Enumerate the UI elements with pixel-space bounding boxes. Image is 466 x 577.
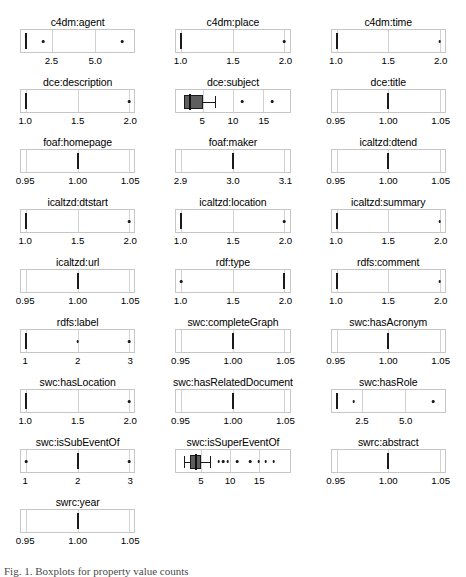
panel-title: swrc:year bbox=[0, 496, 155, 508]
x-axis: 2.93.03.1 bbox=[155, 174, 310, 188]
gridline bbox=[233, 270, 234, 292]
x-axis: 0.951.001.05 bbox=[311, 114, 466, 128]
x-tick-label: 1.0 bbox=[174, 295, 187, 306]
x-tick-label: 1.05 bbox=[431, 175, 450, 186]
whisker-cap bbox=[210, 456, 211, 468]
median-line bbox=[77, 513, 79, 529]
gridline bbox=[388, 210, 389, 232]
boxplot-panel: icaltzd:dtend0.951.001.05 bbox=[311, 136, 466, 196]
boxplot-panel: foaf:homepage0.951.001.05 bbox=[0, 136, 155, 196]
x-axis: 2.55.0 bbox=[0, 54, 155, 68]
x-tick-label: 2.0 bbox=[279, 235, 292, 246]
panel-title: icaltzd:dtstart bbox=[0, 196, 155, 208]
x-axis: 1.01.52.0 bbox=[0, 234, 155, 248]
x-axis: 0.951.001.05 bbox=[311, 354, 466, 368]
gridline bbox=[78, 390, 79, 412]
figure-caption: Fig. 1. Boxplots for property value coun… bbox=[4, 565, 244, 577]
x-axis: 0.951.001.05 bbox=[311, 174, 466, 188]
x-axis: 1.01.52.0 bbox=[311, 294, 466, 308]
x-tick-label: 15 bbox=[254, 475, 265, 486]
median-line bbox=[77, 153, 79, 169]
x-axis: 0.951.001.05 bbox=[0, 534, 155, 548]
panel-title: dce:title bbox=[311, 76, 466, 88]
outlier-point bbox=[222, 460, 225, 463]
panel-plot-area bbox=[20, 149, 135, 173]
x-axis: 1.01.52.0 bbox=[155, 294, 310, 308]
panel-plot-area bbox=[20, 209, 135, 233]
x-tick-label: 10 bbox=[228, 115, 239, 126]
x-tick-label: 1.5 bbox=[226, 235, 239, 246]
x-tick-label: 1 bbox=[22, 355, 27, 366]
boxplot-panel: rdfs:label123 bbox=[0, 316, 155, 376]
outlier-point bbox=[236, 460, 239, 463]
x-tick-label: 1.0 bbox=[174, 55, 187, 66]
x-tick-label: 0.95 bbox=[326, 475, 345, 486]
outlier-point bbox=[272, 460, 275, 463]
x-tick-label: 2.0 bbox=[123, 235, 136, 246]
boxplot-panel: c4dm:time1.01.52.0 bbox=[311, 16, 466, 76]
gridline bbox=[337, 90, 338, 112]
panel-title: swc:hasAcronym bbox=[311, 316, 466, 328]
outlier-point bbox=[257, 460, 260, 463]
median-line bbox=[387, 153, 389, 169]
median-line bbox=[336, 393, 338, 409]
panel-title: c4dm:agent bbox=[0, 16, 155, 28]
outlier-point bbox=[271, 100, 274, 103]
panel-plot-area bbox=[331, 449, 446, 473]
outlier-point bbox=[432, 400, 435, 403]
x-tick-label: 10 bbox=[225, 475, 236, 486]
outlier-point bbox=[42, 40, 45, 43]
gridline bbox=[440, 330, 441, 352]
x-tick-label: 0.95 bbox=[16, 175, 35, 186]
x-tick-label: 1.0 bbox=[329, 295, 342, 306]
x-tick-label: 3 bbox=[127, 355, 132, 366]
x-tick-label: 3.0 bbox=[226, 175, 239, 186]
x-axis: 123 bbox=[0, 474, 155, 488]
x-tick-label: 1.0 bbox=[329, 235, 342, 246]
boxplot-panel: dce:description1.01.52.0 bbox=[0, 76, 155, 136]
x-tick-label: 1.05 bbox=[276, 355, 295, 366]
panel-title: swc:hasRelatedDocument bbox=[155, 376, 310, 388]
x-tick-label: 5 bbox=[198, 475, 203, 486]
boxplot-panel-grid: c4dm:agent2.55.0c4dm:place1.01.52.0c4dm:… bbox=[0, 16, 466, 556]
gridline bbox=[95, 30, 96, 52]
x-tick-label: 1.00 bbox=[379, 475, 398, 486]
x-axis: 0.951.001.05 bbox=[311, 474, 466, 488]
x-tick-label: 1.5 bbox=[382, 55, 395, 66]
panel-title: icaltzd:url bbox=[0, 256, 155, 268]
median-line bbox=[25, 393, 27, 409]
gridline bbox=[78, 210, 79, 232]
gridline bbox=[263, 90, 264, 112]
panel-plot-area bbox=[175, 209, 290, 233]
x-tick-label: 5.0 bbox=[399, 415, 412, 426]
outlier-point bbox=[353, 400, 356, 403]
boxplot-panel: swc:hasRole2.55.0 bbox=[311, 376, 466, 436]
x-tick-label: 1.00 bbox=[68, 295, 87, 306]
gridline bbox=[233, 90, 234, 112]
x-axis: 51015 bbox=[155, 474, 310, 488]
panel-plot-area bbox=[175, 389, 290, 413]
panel-plot-area bbox=[20, 389, 135, 413]
x-tick-label: 2.0 bbox=[279, 55, 292, 66]
x-tick-label: 1.05 bbox=[431, 475, 450, 486]
panel-title: swc:hasRole bbox=[311, 376, 466, 388]
panel-title: swc:isSubEventOf bbox=[0, 436, 155, 448]
boxplot-panel: icaltzd:location1.01.52.0 bbox=[155, 196, 310, 256]
panel-plot-area bbox=[175, 269, 290, 293]
whisker-cap bbox=[215, 96, 216, 108]
panel-title: rdf:type bbox=[155, 256, 310, 268]
x-tick-label: 1.0 bbox=[18, 415, 31, 426]
median-line bbox=[195, 454, 197, 470]
boxplot-panel: icaltzd:summary1.01.52.0 bbox=[311, 196, 466, 256]
gridline bbox=[233, 30, 234, 52]
boxplot-panel: swc:isSubEventOf123 bbox=[0, 436, 155, 496]
median-line bbox=[180, 213, 182, 229]
panel-plot-area bbox=[331, 89, 446, 113]
outlier-point bbox=[121, 40, 124, 43]
panel-title: foaf:homepage bbox=[0, 136, 155, 148]
x-tick-label: 15 bbox=[258, 115, 269, 126]
panel-title: swc:hasLocation bbox=[0, 376, 155, 388]
panel-plot-area bbox=[20, 269, 135, 293]
x-tick-label: 1.05 bbox=[431, 355, 450, 366]
